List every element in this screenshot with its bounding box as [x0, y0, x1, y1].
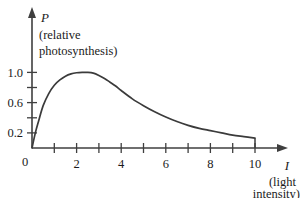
x-tick-label-10: 10	[249, 157, 262, 171]
x-axis-desc-line2: intensity)	[253, 187, 300, 198]
y-tick-label-0-2: 0.2	[7, 126, 23, 140]
photosynthesis-chart: 2 4 6 8 10 0 0.2 0.6 1.0 P (relative pho…	[0, 0, 304, 198]
x-tick-label-8: 8	[207, 157, 213, 171]
y-tick-label-1-0: 1.0	[7, 66, 23, 80]
x-tick-label-6: 6	[163, 157, 169, 171]
origin-label: 0	[22, 155, 28, 169]
y-tick-label-0-6: 0.6	[7, 96, 23, 110]
y-axis-label: P	[40, 10, 49, 25]
chart-canvas: 2 4 6 8 10 0 0.2 0.6 1.0 P (relative pho…	[0, 0, 304, 198]
x-tick-label-2: 2	[73, 157, 79, 171]
y-axis-desc-line1: (relative	[39, 28, 81, 42]
x-tick-label-4: 4	[118, 157, 125, 171]
y-axis-desc-line2: photosynthesis)	[39, 44, 117, 58]
x-axis-label: I	[284, 158, 290, 173]
